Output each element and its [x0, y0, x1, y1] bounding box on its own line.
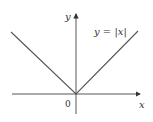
origin-label: 0 — [65, 99, 71, 109]
abs-value-diagram: y y = |x| 0 x — [0, 0, 153, 122]
x-axis-label: x — [139, 99, 145, 110]
y-axis-label: y — [64, 11, 71, 22]
abs-curve — [11, 31, 138, 94]
function-label: y = |x| — [93, 26, 127, 38]
